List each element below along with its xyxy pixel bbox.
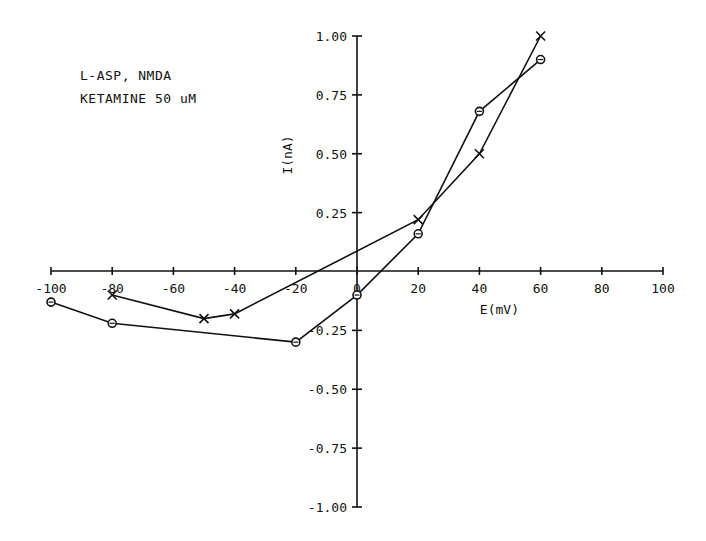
cross-marker-icon xyxy=(536,32,545,41)
x-tick-label: -100 xyxy=(35,281,66,296)
x-tick-label: 60 xyxy=(533,281,549,296)
iv-curve-chart: -100-80-60-40-200204060801001.000.750.50… xyxy=(0,0,706,541)
y-axis-label: I(nA) xyxy=(280,135,295,174)
y-tick-label: -0.75 xyxy=(308,441,347,456)
series-line xyxy=(51,60,541,343)
y-tick-label: 0.75 xyxy=(316,88,347,103)
data-series xyxy=(47,32,545,347)
axis-labels: -100-80-60-40-200204060801001.000.750.50… xyxy=(35,29,674,515)
y-tick-label: 0.50 xyxy=(316,147,347,162)
x-tick-label: 100 xyxy=(651,281,674,296)
x-tick-label: 40 xyxy=(472,281,488,296)
x-tick-label: -40 xyxy=(223,281,246,296)
x-tick-label: 80 xyxy=(594,281,610,296)
series-circles xyxy=(47,56,545,347)
cross-marker-icon xyxy=(414,215,423,224)
y-tick-label: -0.25 xyxy=(308,323,347,338)
axes xyxy=(51,36,663,507)
x-tick-label: 20 xyxy=(410,281,426,296)
x-axis-label: E(mV) xyxy=(480,302,519,317)
series-line xyxy=(112,36,540,319)
x-tick-label: -80 xyxy=(100,281,123,296)
y-tick-label: -0.50 xyxy=(308,382,347,397)
y-tick-label: 1.00 xyxy=(316,29,347,44)
x-tick-label: -60 xyxy=(162,281,185,296)
y-tick-label: -1.00 xyxy=(308,500,347,515)
cross-marker-icon xyxy=(475,149,484,158)
series-crosses xyxy=(108,32,545,324)
y-tick-label: 0.25 xyxy=(316,206,347,221)
